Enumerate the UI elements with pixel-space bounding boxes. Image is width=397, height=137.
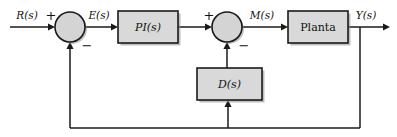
sign-sum1-minus: −: [82, 38, 93, 53]
block-label-d: D(s): [217, 78, 241, 91]
sign-sum2-minus: −: [239, 38, 250, 53]
signal-label-e: E(s): [87, 9, 109, 21]
block-label-planta: Planta: [300, 21, 336, 34]
arrow-into-pi: [111, 23, 118, 30]
arrow-into-planta: [281, 23, 288, 30]
arrow-into-sum2: [205, 23, 212, 30]
signal-label-m: M(s): [249, 9, 274, 21]
signal-label-y: Y(s): [356, 9, 377, 21]
sign-sum2-plus: +: [204, 8, 215, 23]
block-d: D(s): [197, 68, 265, 103]
signal-label-r: R(s): [15, 9, 38, 21]
arrow-output-end: [383, 23, 390, 30]
summing-junction-body-sum1: [55, 12, 85, 42]
block-diagram-figure: PI(s)PlantaD(s) R(s)E(s)M(s)Y(s) +−+−: [0, 0, 397, 137]
block-planta: Planta: [288, 11, 351, 46]
summing-junction-body-sum2: [212, 12, 242, 42]
block-label-pi: PI(s): [134, 21, 161, 34]
sign-sum1-plus: +: [46, 8, 57, 23]
arrow-into-sum1: [48, 23, 55, 30]
diagram-canvas: PI(s)PlantaD(s) R(s)E(s)M(s)Y(s) +−+−: [0, 0, 397, 137]
block-pi: PI(s): [118, 11, 181, 46]
